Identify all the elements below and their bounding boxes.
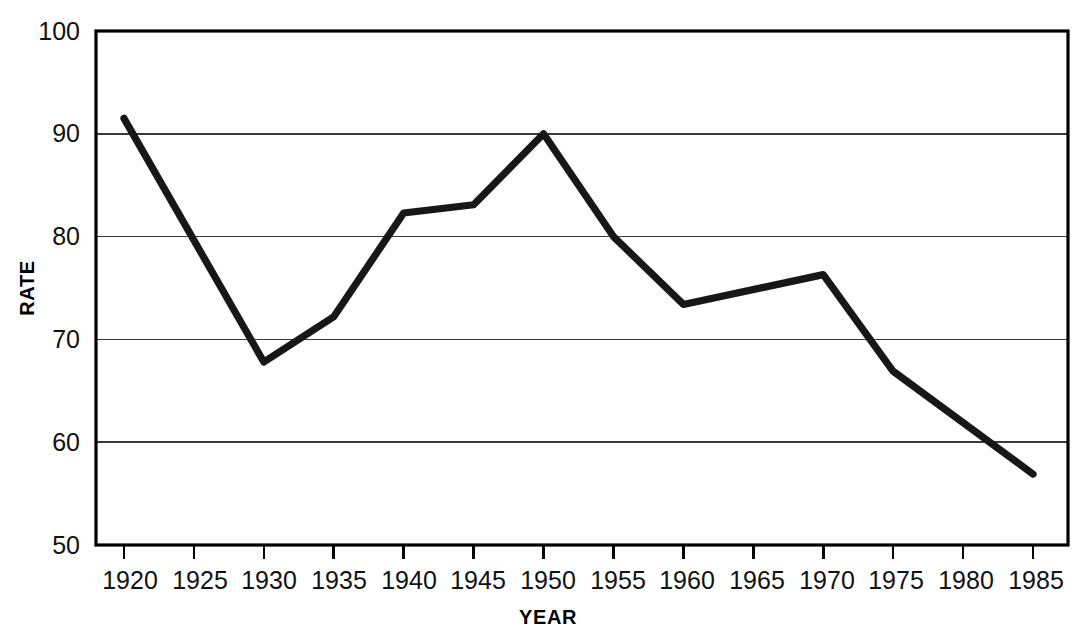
y-tick-label-60: 60 bbox=[52, 428, 80, 456]
x-tick-label-1975: 1975 bbox=[868, 566, 924, 594]
x-tick-label-1935: 1935 bbox=[311, 566, 367, 594]
y-tick-label-90: 90 bbox=[52, 119, 80, 147]
x-tick-label-1930: 1930 bbox=[241, 566, 297, 594]
x-tick-label-1955: 1955 bbox=[590, 566, 646, 594]
x-tick-label-1965: 1965 bbox=[729, 566, 785, 594]
x-tick-label-1945: 1945 bbox=[450, 566, 506, 594]
x-tick-label-1925: 1925 bbox=[172, 566, 228, 594]
x-tick-label-1970: 1970 bbox=[799, 566, 855, 594]
x-tick-label-1980: 1980 bbox=[938, 566, 994, 594]
y-tick-label-70: 70 bbox=[52, 325, 80, 353]
y-tick-label-80: 80 bbox=[52, 222, 80, 250]
x-tick-label-1950: 1950 bbox=[520, 566, 576, 594]
y-tick-label-50: 50 bbox=[52, 531, 80, 559]
x-tick-label-1920: 1920 bbox=[102, 566, 158, 594]
chart-canvas: 50 60 70 80 90 100 1920 1925 1930 1935 1… bbox=[0, 0, 1091, 643]
x-axis-title: YEAR bbox=[519, 606, 577, 628]
line-chart-figure: 50 60 70 80 90 100 1920 1925 1930 1935 1… bbox=[0, 0, 1091, 643]
x-tick-label-1940: 1940 bbox=[381, 566, 437, 594]
x-tick-label-1985: 1985 bbox=[1008, 566, 1064, 594]
x-tick-label-1960: 1960 bbox=[659, 566, 715, 594]
y-tick-label-100: 100 bbox=[38, 17, 80, 45]
y-axis-title: RATE bbox=[16, 260, 38, 315]
